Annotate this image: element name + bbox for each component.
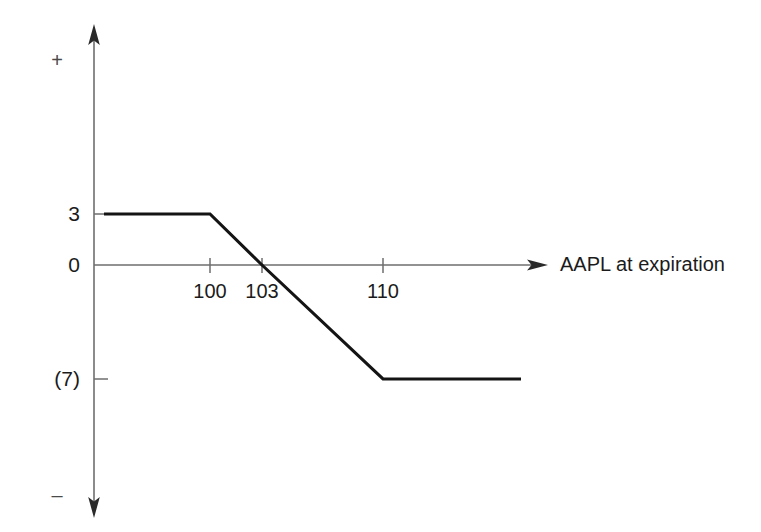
y-axis-negative-sign: –	[44, 485, 70, 505]
payoff-diagram-figure: 3 0 (7) 100 103 110 + – AAPL at expirati…	[0, 0, 761, 532]
y-tick-label-3: 3	[46, 203, 80, 224]
x-axis-group	[94, 259, 548, 270]
y-axis-positive-sign: +	[44, 50, 70, 70]
y-tick-label-negative-7: (7)	[28, 368, 80, 389]
x-axis-title: AAPL at expiration	[560, 254, 725, 274]
y-tick-marks	[94, 214, 108, 379]
y-tick-label-0: 0	[46, 254, 80, 275]
payoff-curve	[104, 214, 521, 379]
x-tick-label-100: 100	[180, 281, 240, 301]
y-axis-group	[88, 24, 100, 518]
x-tick-label-103: 103	[232, 281, 292, 301]
x-tick-label-110: 110	[353, 281, 413, 301]
